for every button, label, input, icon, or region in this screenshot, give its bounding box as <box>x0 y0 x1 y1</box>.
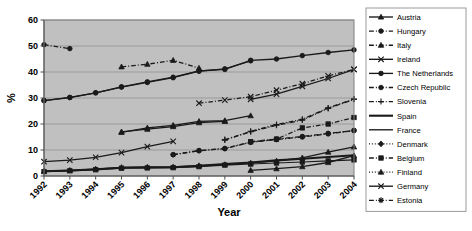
marker-czech-republic-2003 <box>326 132 331 137</box>
legend-label-finland: Finland <box>397 168 422 177</box>
marker-czech-republic-2002 <box>300 135 305 140</box>
marker-belgium-2001 <box>274 137 278 141</box>
marker-the-netherlands-2000 <box>248 58 253 63</box>
legend-background <box>366 8 466 211</box>
legend-label-slovenia: Slovenia <box>397 97 427 106</box>
marker-hungary-1993 <box>68 46 73 51</box>
marker-the-netherlands-2003 <box>326 50 331 55</box>
legend-label-austria: Austria <box>397 13 421 22</box>
y-tick-label-50: 50 <box>28 41 38 51</box>
marker-the-netherlands-1994 <box>93 91 98 96</box>
legend-label-hungary: Hungary <box>397 27 426 36</box>
marker-czech-republic-1998 <box>197 148 202 153</box>
legend-label-germany: Germany <box>397 182 428 191</box>
y-tick-label-40: 40 <box>28 67 38 77</box>
legend-label-spain: Spain <box>397 112 416 121</box>
legend-label-ireland: Ireland <box>397 55 420 64</box>
marker-belgium-2000 <box>248 139 252 143</box>
legend-marker-belgium <box>379 156 383 160</box>
legend-label-czech-republic: Czech Republic <box>397 83 450 92</box>
chart-screenshot: 0102030405060 19921993199419951996199719… <box>0 0 472 231</box>
y-tick-label-30: 30 <box>28 93 38 103</box>
y-axis-title: % <box>5 93 17 103</box>
marker-the-netherlands-1997 <box>171 75 176 80</box>
legend-label-the-netherlands: The Netherlands <box>397 69 453 78</box>
chart-legend: AustriaHungaryItalyIrelandThe Netherland… <box>366 8 466 211</box>
marker-czech-republic-1999 <box>223 146 228 151</box>
legend-label-italy: Italy <box>397 41 411 50</box>
marker-the-netherlands-1998 <box>197 69 202 74</box>
legend-marker-czech-republic <box>379 85 384 90</box>
marker-czech-republic-1997 <box>171 152 176 157</box>
marker-the-netherlands-2002 <box>300 53 305 58</box>
marker-the-netherlands-2001 <box>274 57 279 62</box>
legend-label-france: France <box>397 126 421 135</box>
marker-belgium-2003 <box>326 122 330 126</box>
legend-marker-the-netherlands <box>379 71 384 76</box>
marker-the-netherlands-1996 <box>145 80 150 85</box>
legend-label-belgium: Belgium <box>397 154 424 163</box>
marker-the-netherlands-1993 <box>68 95 73 100</box>
legend-label-denmark: Denmark <box>397 140 428 149</box>
marker-belgium-2002 <box>300 126 304 130</box>
y-tick-label-10: 10 <box>28 145 38 155</box>
y-tick-label-20: 20 <box>28 119 38 129</box>
y-tick-label-60: 60 <box>28 15 38 25</box>
line-chart: 0102030405060 19921993199419951996199719… <box>0 0 472 231</box>
y-tick-label-0: 0 <box>33 171 38 181</box>
x-axis-title: Year <box>217 206 241 218</box>
marker-the-netherlands-1999 <box>223 67 228 72</box>
legend-label-estonia: Estonia <box>397 196 423 205</box>
legend-marker-hungary <box>379 29 384 34</box>
marker-the-netherlands-1995 <box>119 85 124 90</box>
